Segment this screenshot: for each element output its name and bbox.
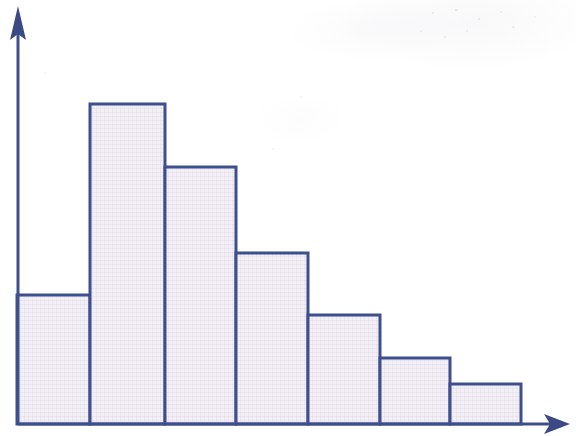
bar-series xyxy=(17,104,521,424)
histogram-bar xyxy=(236,253,308,424)
histogram-bar xyxy=(17,295,90,424)
histogram-bar xyxy=(380,358,450,424)
histogram-figure xyxy=(0,0,576,436)
histogram-bar xyxy=(308,315,380,424)
histogram-bar xyxy=(90,104,165,424)
histogram-plot xyxy=(0,0,576,436)
histogram-bar xyxy=(165,167,236,424)
histogram-bar xyxy=(450,384,521,424)
